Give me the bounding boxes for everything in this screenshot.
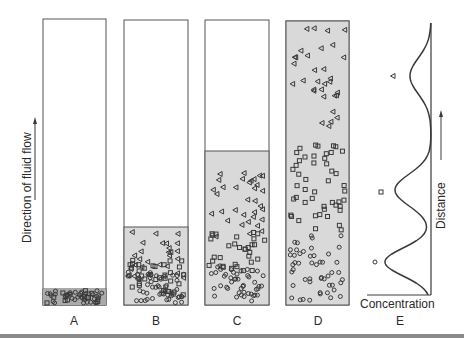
concentration-axis-label: Concentration (360, 297, 435, 311)
square-particle (379, 190, 383, 194)
diagram-canvas (0, 0, 464, 338)
fluid-flow-label: Direction of fluid flow (20, 132, 34, 243)
chromatography-figure: Direction of fluid flow A B C D E Concen… (0, 0, 464, 338)
distance-axis-label: Distance (434, 182, 448, 229)
panel-e-label: E (390, 314, 410, 328)
column-a (43, 19, 106, 305)
triangle-particle (391, 74, 396, 79)
column-a-label: A (64, 314, 84, 328)
page-edge-band (0, 334, 464, 338)
flow-arrow-head (33, 117, 37, 124)
column-b-label: B (146, 314, 166, 328)
column-d-label: D (308, 314, 328, 328)
column-c-label: C (227, 314, 247, 328)
elution-curve (385, 23, 431, 295)
circle-particle (373, 260, 377, 264)
distance-arrow-head (439, 110, 443, 117)
